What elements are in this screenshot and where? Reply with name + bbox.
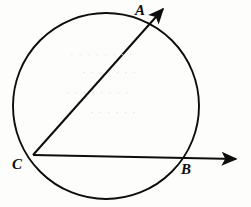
point-label-a: A bbox=[135, 3, 145, 18]
point-label-c: C bbox=[12, 157, 22, 172]
circle-outline bbox=[13, 13, 199, 199]
point-label-b: B bbox=[181, 162, 191, 177]
geometry-canvas bbox=[0, 0, 251, 207]
ray-c-to-b bbox=[33, 155, 236, 159]
geometry-figure: A B C · · · · · · · ·· · · · · · ·· · · … bbox=[0, 0, 251, 207]
